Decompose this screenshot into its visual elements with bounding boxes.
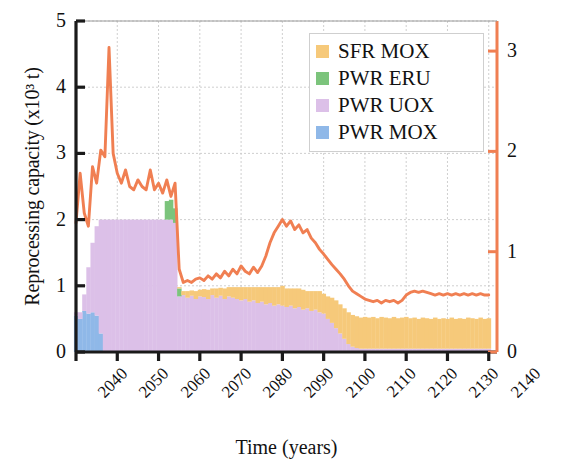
- bar-segment: [123, 220, 127, 352]
- bar-segment: [404, 317, 408, 349]
- bar-segment: [350, 315, 354, 347]
- bar-segment: [305, 291, 309, 308]
- bar-segment: [470, 318, 474, 348]
- bar-segment: [355, 316, 359, 348]
- bar-segment: [317, 291, 321, 312]
- bar-segment: [156, 220, 160, 352]
- bar-segment: [462, 319, 466, 349]
- bar-segment: [322, 314, 326, 352]
- bar-segment: [202, 297, 206, 352]
- bar-segment: [396, 318, 400, 348]
- bar-segment: [235, 299, 239, 352]
- y-tick-label-left: 4: [36, 76, 66, 96]
- bar-segment: [206, 290, 210, 299]
- bar-segment: [276, 304, 280, 352]
- bar-segment: [392, 317, 396, 349]
- bar-segment: [251, 300, 255, 352]
- bar-segment: [276, 287, 280, 304]
- bar-segment: [227, 287, 231, 296]
- bar-segment: [474, 319, 478, 349]
- bar-segment: [450, 318, 454, 349]
- bar-segment: [466, 318, 470, 349]
- bar-segment: [214, 298, 218, 352]
- y-tick-label-left: 0: [36, 341, 66, 361]
- legend-item: PWR ERU: [316, 65, 477, 92]
- bar-segment: [144, 220, 148, 352]
- bar-segment: [375, 318, 379, 348]
- bar-segment: [256, 287, 260, 303]
- bar-segment: [223, 299, 227, 352]
- bar-segment: [185, 298, 189, 352]
- bar-segment: [272, 287, 276, 306]
- bar-segment: [177, 288, 181, 296]
- y-tick-label-right: 3: [507, 40, 537, 60]
- bar-segment: [330, 323, 334, 352]
- bar-segment: [268, 303, 272, 352]
- bar-segment: [342, 308, 346, 338]
- bar-segment: [322, 294, 326, 314]
- bar-segment: [132, 220, 136, 352]
- bar-segment: [326, 319, 330, 352]
- bar-segment: [342, 339, 346, 352]
- bar-segment: [78, 319, 82, 352]
- bar-segment: [223, 288, 227, 299]
- bar-segment: [194, 291, 198, 299]
- bar-segment: [309, 291, 313, 311]
- y-tick-label-left: 3: [36, 142, 66, 162]
- bar-segment: [330, 298, 334, 323]
- bar-segment: [305, 308, 309, 352]
- bar-segment: [379, 317, 383, 349]
- bar-segment: [107, 220, 111, 352]
- bar-segment: [206, 299, 210, 352]
- bar-segment: [90, 312, 94, 352]
- bar-segment: [86, 314, 90, 352]
- bar-segment: [293, 288, 297, 308]
- bar-segment: [388, 318, 392, 348]
- bar-segment: [231, 298, 235, 352]
- bar-segment: [334, 328, 338, 352]
- bar-segment: [384, 318, 388, 349]
- bar-segment: [214, 288, 218, 297]
- bar-segment: [400, 318, 404, 349]
- bar-segment: [478, 318, 482, 349]
- bar-segment: [247, 287, 251, 302]
- chart-figure: Reprocessing capacity (x10³ t) HLW packa…: [0, 0, 576, 466]
- bar-segment: [313, 310, 317, 352]
- bar-segment: [334, 300, 338, 328]
- bar-segment: [152, 220, 156, 352]
- legend-label: PWR ERU: [338, 68, 431, 89]
- bar-segment: [95, 226, 99, 315]
- bar-segment: [260, 287, 264, 302]
- bar-segment: [280, 306, 284, 352]
- bar-segment: [239, 287, 243, 300]
- bar-segment: [367, 318, 371, 349]
- bar-segment: [301, 310, 305, 352]
- bar-segment: [412, 318, 416, 349]
- legend-swatch-icon: [316, 126, 329, 139]
- bar-segment: [437, 319, 441, 349]
- bar-segment: [417, 319, 421, 349]
- bar-segment: [268, 287, 272, 303]
- bar-segment: [313, 291, 317, 310]
- bar-segment: [264, 304, 268, 352]
- bar-segment: [487, 318, 491, 348]
- plot-area: [0, 0, 576, 466]
- bar-segment: [128, 220, 132, 352]
- bar-segment: [90, 243, 94, 313]
- bar-segment: [210, 295, 214, 352]
- bar-segment: [280, 286, 284, 306]
- bar-segment: [297, 307, 301, 352]
- bar-segment: [289, 288, 293, 305]
- bar-segment: [148, 220, 152, 352]
- bar-segment: [165, 220, 169, 352]
- bar-segment: [181, 295, 185, 352]
- bar-segment: [198, 290, 202, 297]
- bar-segment: [177, 296, 181, 352]
- legend-label: PWR UOX: [338, 95, 434, 116]
- bar-segment: [359, 318, 363, 349]
- bar-segment: [86, 267, 90, 313]
- bar-segment: [82, 311, 86, 352]
- bar-segment: [338, 333, 342, 352]
- y-tick-label-left: 1: [36, 275, 66, 295]
- bar-segment: [202, 289, 206, 297]
